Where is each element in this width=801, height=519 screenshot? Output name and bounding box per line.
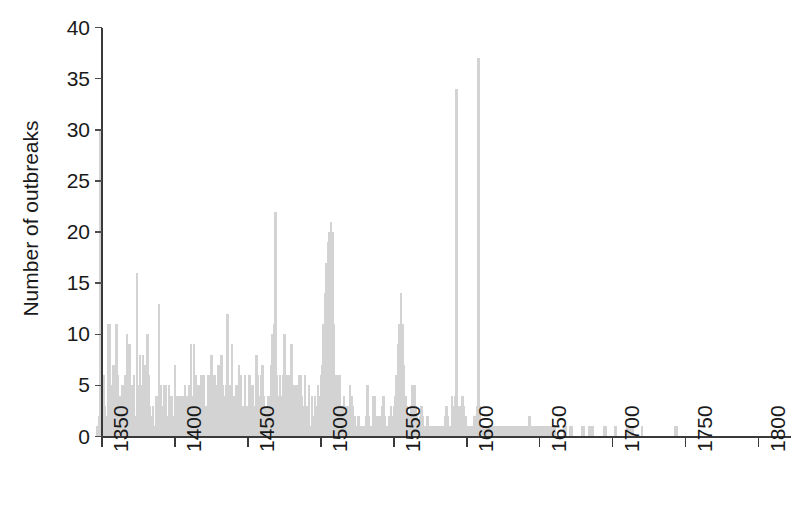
x-tick-label: 1500	[329, 405, 350, 452]
x-tick-mark	[758, 438, 760, 447]
bar	[591, 426, 594, 436]
x-tick-mark	[466, 438, 468, 447]
bar	[582, 426, 585, 436]
x-tick-mark	[393, 438, 395, 447]
bar	[477, 58, 480, 436]
x-tick-label: 1700	[621, 405, 642, 452]
y-tick-mark	[95, 27, 102, 29]
x-tick-mark	[101, 438, 103, 447]
bar	[614, 426, 617, 436]
y-tick-mark	[95, 129, 102, 131]
x-tick-label: 1650	[548, 405, 569, 452]
y-tick-mark	[95, 436, 102, 438]
y-tick-mark	[95, 231, 102, 233]
x-tick-mark	[174, 438, 176, 447]
x-tick-label: 1750	[694, 405, 715, 452]
bar	[676, 426, 679, 436]
y-axis-line	[101, 28, 103, 438]
x-tick-label: 1400	[183, 405, 204, 452]
bar	[455, 89, 458, 437]
y-tick-mark	[95, 334, 102, 336]
x-tick-mark	[685, 438, 687, 447]
x-tick-mark	[247, 438, 249, 447]
x-tick-label: 1550	[402, 405, 423, 452]
x-tick-label: 1800	[767, 405, 788, 452]
y-tick-mark	[95, 282, 102, 284]
y-tick-mark	[95, 385, 102, 387]
bar	[604, 426, 607, 436]
x-tick-mark	[612, 438, 614, 447]
y-tick-mark	[95, 78, 102, 80]
x-tick-mark	[539, 438, 541, 447]
y-tick-mark	[95, 180, 102, 182]
x-tick-label: 1350	[110, 405, 131, 452]
x-tick-label: 1600	[475, 405, 496, 452]
x-tick-label: 1450	[256, 405, 277, 452]
x-tick-mark	[320, 438, 322, 447]
bar	[570, 426, 573, 436]
outbreaks-bar-chart: Number of outbreaks 0510152025303540 135…	[0, 0, 801, 519]
